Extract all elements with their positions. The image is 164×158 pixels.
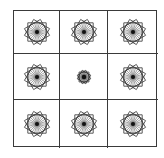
rosette-icon bbox=[23, 63, 51, 91]
grid-cell-r3-c1 bbox=[14, 100, 60, 148]
puzzle-grid bbox=[13, 10, 157, 147]
rosette-icon bbox=[70, 18, 98, 46]
rosette-icon bbox=[119, 110, 147, 138]
rosette-icon bbox=[23, 18, 51, 46]
rosette-icon bbox=[76, 69, 92, 85]
grid-cell-r3-c2 bbox=[60, 100, 108, 148]
grid-cell-r3-c3 bbox=[108, 100, 158, 148]
grid-cell-r2-c3 bbox=[108, 54, 158, 100]
grid-cell-r1-c1 bbox=[14, 11, 60, 54]
rosette-icon bbox=[70, 110, 98, 138]
grid-cell-r1-c2 bbox=[60, 11, 108, 54]
grid-cell-r2-c1 bbox=[14, 54, 60, 100]
rosette-icon bbox=[119, 18, 147, 46]
rosette-icon bbox=[23, 110, 51, 138]
grid-cell-r2-c2 bbox=[60, 54, 108, 100]
rosette-icon bbox=[119, 63, 147, 91]
grid-cell-r1-c3 bbox=[108, 11, 158, 54]
